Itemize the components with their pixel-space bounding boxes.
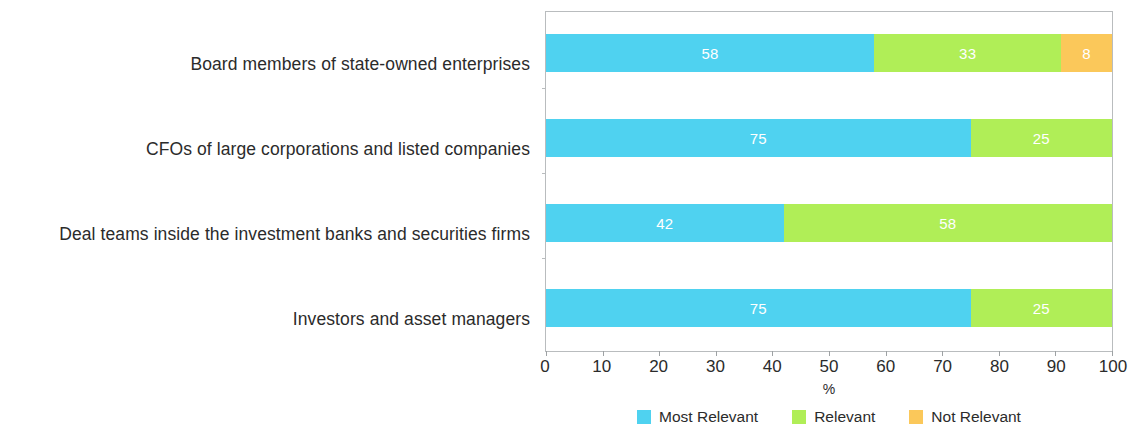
x-tick-label: 40 [763, 358, 782, 375]
bar-value-label: 25 [1033, 131, 1050, 146]
legend-item-relevant[interactable]: Relevant [792, 409, 875, 425]
bar-value-label: 75 [750, 131, 767, 146]
legend-label: Not Relevant [931, 409, 1021, 425]
bar-segment-most-relevant[interactable]: 75 [546, 289, 971, 327]
x-tick-label: 90 [1047, 358, 1066, 375]
bar-row[interactable]: 42 58 [546, 204, 1112, 242]
bar-value-label: 58 [939, 216, 956, 231]
y-tick-mark [542, 88, 546, 89]
category-label: CFOs of large corporations and listed co… [0, 141, 530, 159]
legend-swatch-icon [909, 410, 923, 424]
legend-item-most-relevant[interactable]: Most Relevant [637, 409, 758, 425]
x-tick-label: 50 [820, 358, 839, 375]
x-tick-label: 100 [1099, 358, 1127, 375]
bar-segment-relevant[interactable]: 25 [971, 289, 1113, 327]
x-tick-mark [1112, 351, 1113, 356]
legend-label: Relevant [814, 409, 875, 425]
category-axis-labels: Board members of state-owned enterprises… [0, 11, 538, 352]
plot-inner: 58 33 8 75 25 42 [546, 12, 1112, 351]
legend-swatch-icon [792, 410, 806, 424]
bar-row[interactable]: 75 25 [546, 119, 1112, 157]
legend-item-not-relevant[interactable]: Not Relevant [909, 409, 1021, 425]
legend-label: Most Relevant [659, 409, 758, 425]
bar-value-label: 75 [750, 301, 767, 316]
x-tick-label: 30 [706, 358, 725, 375]
x-tick-mark [659, 351, 660, 356]
bar-value-label: 42 [656, 216, 673, 231]
bar-segment-relevant[interactable]: 25 [971, 119, 1113, 157]
x-tick-mark [886, 351, 887, 356]
x-tick-label: 60 [876, 358, 895, 375]
bar-value-label: 33 [959, 46, 976, 61]
bar-value-label: 58 [702, 46, 719, 61]
x-tick-mark [829, 351, 830, 356]
x-tick-mark [772, 351, 773, 356]
x-tick-label: 0 [540, 358, 549, 375]
chart-legend: Most Relevant Relevant Not Relevant [545, 409, 1113, 425]
x-tick-mark [716, 351, 717, 356]
x-tick-label: 10 [592, 358, 611, 375]
bar-segment-most-relevant[interactable]: 42 [546, 204, 784, 242]
category-label: Board members of state-owned enterprises [0, 56, 530, 74]
plot-area: 58 33 8 75 25 42 [545, 11, 1113, 352]
x-tick-mark [1055, 351, 1056, 356]
x-tick-label: 70 [933, 358, 952, 375]
x-tick-mark [546, 351, 547, 356]
bar-value-label: 8 [1082, 46, 1091, 61]
legend-swatch-icon [637, 410, 651, 424]
bar-segment-most-relevant[interactable]: 58 [546, 34, 874, 72]
category-label: Deal teams inside the investment banks a… [0, 226, 530, 244]
bar-segment-relevant[interactable]: 33 [874, 34, 1061, 72]
category-label: Investors and asset managers [0, 311, 530, 329]
y-tick-mark [542, 258, 546, 259]
bar-segment-relevant[interactable]: 58 [784, 204, 1112, 242]
x-tick-mark [603, 351, 604, 356]
x-tick-label: 20 [649, 358, 668, 375]
bar-segment-most-relevant[interactable]: 75 [546, 119, 971, 157]
x-tick-mark [999, 351, 1000, 356]
x-tick-mark [942, 351, 943, 356]
y-tick-mark [542, 173, 546, 174]
bar-row[interactable]: 75 25 [546, 289, 1112, 327]
bar-segment-not-relevant[interactable]: 8 [1061, 34, 1112, 72]
x-axis-tick-labels: 0 10 20 30 40 50 60 70 80 90 100 [545, 358, 1113, 382]
x-axis-title: % [545, 382, 1113, 396]
bar-row[interactable]: 58 33 8 [546, 34, 1112, 72]
bar-value-label: 25 [1033, 301, 1050, 316]
x-tick-label: 80 [990, 358, 1009, 375]
stacked-bar-chart: Board members of state-owned enterprises… [0, 0, 1132, 434]
